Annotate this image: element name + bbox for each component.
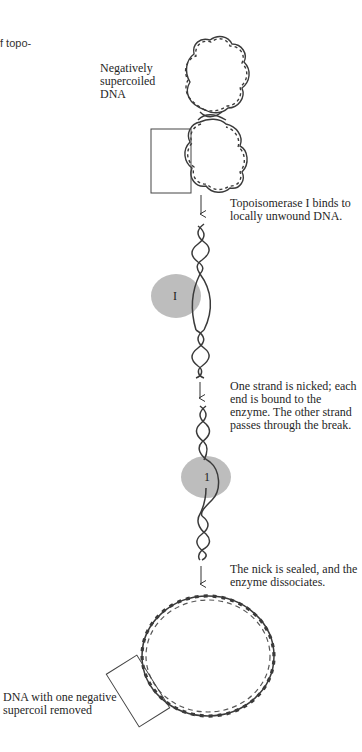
enzyme-label: I [173,289,177,303]
supercoiled-dna-icon [185,37,249,193]
enzyme-label: 1 [204,470,210,484]
region-highlight-box [151,129,191,193]
diagram-svg: I 1 [0,0,362,752]
topoisomerase-figure: f topo- Negatively supercoiled DNA Topoi… [0,0,362,752]
relaxed-circular-dna-icon [138,592,278,721]
